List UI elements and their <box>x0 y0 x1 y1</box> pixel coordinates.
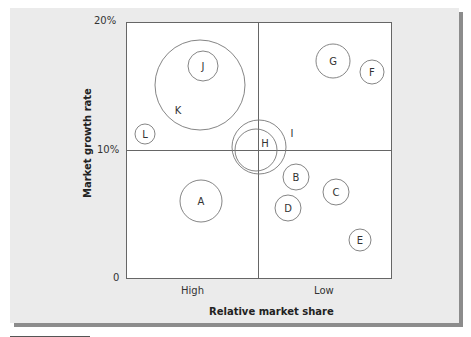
y-tick-0: 0 <box>113 272 119 283</box>
bubble-label-k: K <box>175 105 182 116</box>
bubble-label-g: G <box>329 56 337 67</box>
bubble-label-a: A <box>198 196 205 207</box>
bubble-label-d: D <box>284 203 292 214</box>
x-axis-title: Relative market share <box>209 306 334 317</box>
bubble-label-i: I <box>291 128 294 139</box>
y-tick-20: 20% <box>94 15 116 26</box>
bubble-label-h: H <box>261 138 269 149</box>
x-tick-high: High <box>181 285 204 296</box>
y-axis-title: Market growth rate <box>82 88 93 198</box>
bubble-label-b: B <box>293 172 300 183</box>
bubble-label-f: F <box>369 67 375 78</box>
bubble-label-l: L <box>142 129 148 140</box>
y-tick-10: 10% <box>97 144 119 155</box>
x-tick-low: Low <box>314 285 334 296</box>
bubble-label-j: J <box>201 61 205 72</box>
bubble-chart: ABCDEFGHIJKL <box>0 0 471 337</box>
bubble-label-e: E <box>357 235 363 246</box>
bubble-label-c: C <box>333 187 340 198</box>
